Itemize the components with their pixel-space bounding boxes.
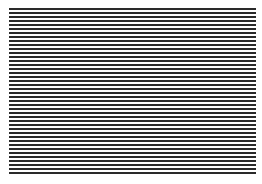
stripe	[9, 120, 256, 122]
stripe	[9, 164, 256, 166]
stripe	[9, 28, 256, 30]
stripe	[9, 8, 256, 10]
stripe	[9, 24, 256, 26]
stripe	[9, 160, 256, 162]
stripe	[9, 56, 256, 58]
stripe	[9, 16, 256, 18]
stripe	[9, 156, 256, 158]
stripe	[9, 76, 256, 78]
stripe	[9, 88, 256, 90]
stripe	[9, 80, 256, 82]
stripe	[9, 48, 256, 50]
stripe	[9, 108, 256, 110]
stripe	[9, 32, 256, 34]
stripe	[9, 100, 256, 102]
stripe	[9, 68, 256, 70]
striped-pattern	[9, 8, 256, 176]
stripe	[9, 84, 256, 86]
stripe	[9, 12, 256, 14]
stripe	[9, 136, 256, 138]
stripe	[9, 44, 256, 46]
stripe	[9, 104, 256, 106]
stripe	[9, 132, 256, 134]
stripe	[9, 52, 256, 54]
stripe	[9, 124, 256, 126]
stripe	[9, 40, 256, 42]
stripe	[9, 72, 256, 74]
stripe	[9, 96, 256, 98]
stripe	[9, 92, 256, 94]
stripe	[9, 64, 256, 66]
stripe	[9, 112, 256, 114]
stripe	[9, 152, 256, 154]
stripe	[9, 144, 256, 146]
stripe	[9, 168, 256, 170]
stripe	[9, 116, 256, 118]
stripe	[9, 60, 256, 62]
stripe	[9, 140, 256, 142]
stripe	[9, 20, 256, 22]
stripe	[9, 172, 256, 174]
stripe	[9, 128, 256, 130]
stripe	[9, 36, 256, 38]
stripe	[9, 148, 256, 150]
